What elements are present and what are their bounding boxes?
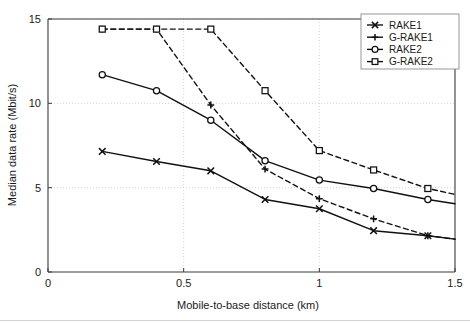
chart-legend: RAKE1G-RAKE1RAKE2G-RAKE2: [361, 14, 459, 69]
marker-circle: [153, 88, 159, 94]
marker-circle: [99, 72, 105, 78]
marker-plus: [316, 195, 323, 202]
legend-label: RAKE2: [389, 44, 422, 55]
marker-circle: [372, 46, 378, 52]
marker-square: [425, 186, 431, 192]
y-tick-label: 10: [29, 97, 41, 109]
y-tick-label: 15: [29, 13, 41, 25]
legend-label: RAKE1: [389, 20, 422, 31]
x-axis-title: Mobile-to-base distance (km): [177, 299, 319, 311]
marker-square: [208, 26, 214, 32]
marker-square: [262, 88, 268, 94]
y-tick-label: 5: [35, 182, 41, 194]
marker-square: [316, 148, 322, 154]
x-tick-label: 0.5: [176, 277, 191, 289]
marker-square: [372, 59, 378, 65]
x-tick-label: 0: [45, 277, 51, 289]
marker-square: [371, 167, 377, 173]
y-tick-label: 0: [35, 266, 41, 278]
series-rake2: [99, 72, 455, 204]
marker-plus: [370, 215, 377, 222]
figure-container: 05101500.511.5 RAKE1G-RAKE1RAKE2G-RAKE2 …: [0, 0, 470, 323]
marker-circle: [316, 177, 322, 183]
legend-label: G-RAKE1: [389, 32, 433, 43]
x-tick-label: 1: [316, 277, 322, 289]
marker-square: [154, 26, 160, 32]
marker-circle: [425, 196, 431, 202]
marker-circle: [371, 185, 377, 191]
marker-plus: [262, 166, 269, 173]
line-chart: 05101500.511.5 RAKE1G-RAKE1RAKE2G-RAKE2 …: [0, 0, 470, 323]
y-axis-title: Median data rate (Mbit/s): [6, 84, 18, 206]
series-path: [102, 151, 455, 239]
marker-circle: [262, 158, 268, 164]
x-tick-label: 1.5: [447, 277, 462, 289]
marker-circle: [208, 117, 214, 123]
marker-square: [99, 26, 105, 32]
legend-label: G-RAKE2: [389, 56, 433, 67]
